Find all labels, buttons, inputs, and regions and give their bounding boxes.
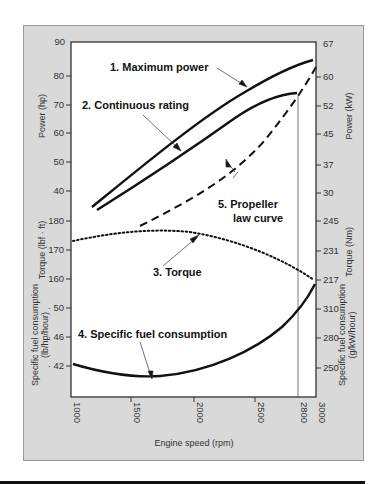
right-sfc-title: Specific fuel consumption [337,284,347,386]
left-sfc-title: Specific fuel consumption [30,284,40,386]
left-axis-labels: 90 80 70 60 50 40 180 170 160 · 50 · 46 … [48,36,65,371]
svg-text:3000: 3000 [317,402,328,423]
left-axis-ticks [66,76,71,366]
svg-text:245: 245 [323,215,339,226]
label-propeller: 5. Propeller [218,198,279,210]
svg-text:160: 160 [48,273,64,284]
svg-text:2500: 2500 [256,402,267,423]
engine-performance-chart: 90 80 70 60 50 40 180 170 160 · 50 · 46 … [0,0,383,484]
right-torque-title: Torque (Nm) [344,227,354,277]
svg-text:30: 30 [323,187,334,198]
svg-text:180: 180 [48,215,64,226]
svg-text:45: 45 [323,128,334,139]
right-sfc-unit: (g/kW/hour) [347,311,357,358]
svg-text:· 50: · 50 [48,302,64,313]
svg-text:50: 50 [53,156,64,167]
svg-text:90: 90 [54,36,65,47]
right-axis-ticks [316,77,321,368]
svg-text:217: 217 [323,274,339,285]
svg-text:60: 60 [323,71,334,82]
left-sfc-unit: (lb/hp/hour) [40,312,50,358]
svg-text:170: 170 [48,244,64,255]
left-torque-title: Torque (lbf · ft) [37,221,47,280]
svg-text:40: 40 [53,185,64,196]
svg-text:· 42: · 42 [48,360,64,371]
left-power-title: Power (hp) [37,94,47,138]
label-maximum-power: 1. Maximum power [110,61,209,73]
svg-text:1000: 1000 [72,402,83,423]
svg-text:67: 67 [323,38,334,49]
x-axis-title: Engine speed (rpm) [154,438,233,448]
svg-text:52: 52 [323,100,334,111]
x-axis-labels: 1000 1500 2000 2500 2800 3000 [72,402,328,423]
svg-text:2800: 2800 [299,402,310,423]
svg-text:70: 70 [53,99,64,110]
label-specific-fuel-consumption: 4. Specific fuel consumption [78,328,227,340]
label-continuous-rating: 2. Continuous rating [82,99,189,111]
x-axis-ticks [131,397,255,402]
svg-text:60: 60 [53,127,64,138]
svg-text:37: 37 [323,159,334,170]
svg-text:80: 80 [53,70,64,81]
right-power-title: Power (kW) [344,92,354,139]
svg-text:2000: 2000 [195,402,206,423]
label-torque: 3. Torque [153,266,202,278]
svg-text:1500: 1500 [132,402,143,423]
label-law-curve: law curve [233,212,283,224]
svg-text:231: 231 [323,245,339,256]
svg-text:· 46: · 46 [48,331,64,342]
